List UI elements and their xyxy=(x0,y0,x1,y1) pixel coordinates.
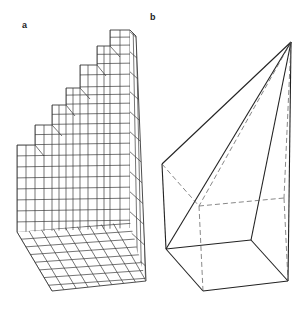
staircase-side-grid xyxy=(128,20,150,300)
staircase-floor-grid xyxy=(10,222,150,291)
polyhedron-diagram xyxy=(162,42,291,291)
figure-canvas xyxy=(0,0,302,309)
staircase-diagram xyxy=(10,20,150,300)
staircase-front-grid xyxy=(10,20,140,300)
